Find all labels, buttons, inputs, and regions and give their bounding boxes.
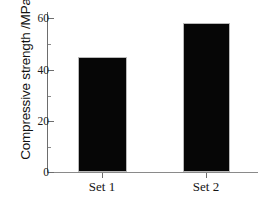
x-tick-set-2 [206, 173, 207, 178]
y-tick-label-0: 0 [21, 166, 49, 178]
y-tick-label-60: 60 [21, 12, 49, 24]
y-tick-minor-50 [48, 44, 51, 45]
y-tick-label-20: 20 [21, 115, 49, 127]
x-axis-line [47, 172, 258, 173]
y-tick-minor-30 [48, 96, 51, 97]
bar-set-2 [183, 23, 230, 172]
x-category-label-set-1: Set 1 [62, 179, 142, 195]
y-axis-title: Compressive strength /MPa [15, 0, 37, 169]
x-category-label-set-2: Set 2 [166, 179, 246, 195]
bar-set-1 [78, 57, 127, 173]
y-axis-line [47, 12, 48, 173]
y-tick-minor-10 [48, 147, 51, 148]
bar-chart-figure: Compressive strength /MPa 0 20 40 60 Set… [0, 0, 273, 201]
x-tick-set-1 [102, 173, 103, 178]
y-tick-label-40: 40 [21, 64, 49, 76]
